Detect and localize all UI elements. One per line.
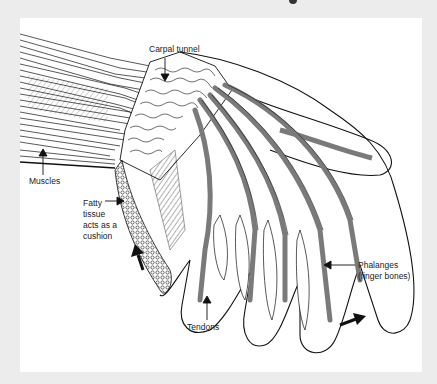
tendons-group — [195, 85, 360, 320]
label-fatty-tissue: Fatty tissue acts as a cushion — [83, 198, 117, 242]
label-phalanges: Phalanges (finger bones) — [358, 260, 410, 282]
label-muscles: Muscles — [29, 176, 60, 187]
label-carpal-tunnel: Carpal tunnel — [149, 44, 200, 55]
label-tendons: Tendons — [187, 322, 219, 333]
